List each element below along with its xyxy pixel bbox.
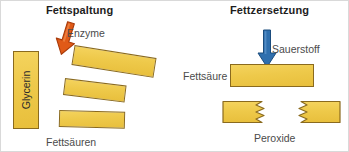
peroxide-caption: Peroxide (254, 132, 295, 144)
fatty-acid-bar-3 (59, 110, 125, 129)
fatty-acids-caption: Fettsäuren (46, 136, 96, 148)
peroxide-fragment-right (287, 100, 339, 122)
fatty-acid-bar-2 (63, 78, 127, 102)
glycerin-label: Glycerin (19, 53, 33, 127)
fatty-acid-block (230, 64, 314, 87)
panel-title-fat-decomposition: Fettzersetzung (230, 4, 309, 16)
glycerin-block: Glycerin (13, 51, 39, 129)
oxygen-label: Sauerstoff (272, 43, 320, 55)
peroxide-fragment-left (222, 100, 274, 122)
fatty-acid-bar-1 (71, 45, 156, 78)
enzyme-label: Enzyme (67, 27, 105, 39)
fatty-acid-label: Fettsäure (183, 70, 227, 82)
biochemistry-diagram: Fettspaltung Enzyme Glycerin Fettsäuren … (0, 0, 349, 152)
panel-title-fat-cleavage: Fettspaltung (46, 4, 113, 16)
